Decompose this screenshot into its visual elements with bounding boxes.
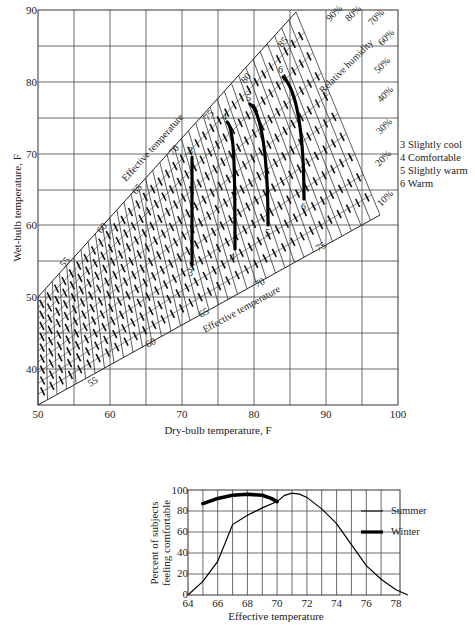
x-tick-60: 60	[105, 408, 117, 420]
rh-caption: Relative humidity	[317, 37, 376, 96]
upper-x-axis-label: Dry-bulb temperature, F	[164, 424, 271, 436]
legend-warm: 6 Warm	[400, 178, 433, 189]
chart-canvas: 3 3 4 4 5 5 6 6 55 60 65 70 75 80 85 Eff…	[0, 0, 475, 634]
x-tick-90: 90	[321, 408, 333, 420]
et-upper-55: 55	[57, 255, 72, 270]
rh-50: 50%	[372, 55, 393, 76]
et-upper-70: 70	[166, 143, 181, 158]
lower-y-axis-label-1: Percent of subjects	[148, 501, 160, 584]
rh-40: 40%	[375, 84, 396, 105]
lower-plot-frame	[188, 490, 400, 595]
curve-6-bottom-label: 6	[301, 201, 306, 212]
y-tick-80: 80	[26, 76, 38, 88]
lx-tick-66: 66	[212, 597, 224, 609]
rh-30: 30%	[374, 116, 395, 137]
lx-tick-74: 74	[331, 597, 343, 609]
curve-5-slightly-warm	[250, 104, 268, 225]
y-tick-40: 40	[26, 363, 38, 375]
y-tick-90: 90	[26, 4, 38, 16]
y-tick-60: 60	[26, 219, 38, 231]
lx-tick-76: 76	[361, 597, 373, 609]
ly-tick-20: 20	[177, 567, 189, 579]
lower-chart: 64 66 68 70 72 74 76 78 0 20 40 60 80 10…	[148, 484, 427, 622]
y-tick-50: 50	[26, 291, 38, 303]
curve-3-top-label: 3	[188, 145, 193, 156]
et-upper-85: 85	[275, 35, 290, 50]
ly-tick-100: 100	[172, 484, 189, 496]
x-tick-100: 100	[390, 408, 407, 420]
rh-90: 90%	[324, 3, 345, 24]
ly-tick-80: 80	[177, 504, 189, 516]
curve-5-bottom-label: 5	[265, 227, 270, 238]
curve-6-top-label: 6	[278, 64, 283, 75]
lx-tick-68: 68	[242, 597, 254, 609]
lower-y-ticks: 0 20 40 60 80 100	[172, 484, 189, 600]
curve-3-bottom-label: 3	[188, 267, 193, 278]
lower-grid	[188, 490, 400, 595]
upper-y-axis-label: Wet-bulb temperature, F	[11, 154, 23, 262]
lower-y-axis-label-2: feeling comfortable	[160, 500, 172, 587]
legend-slightly-cool: 3 Slightly cool	[400, 139, 462, 150]
upper-legend: 3 Slightly cool 4 Comfortable 5 Slightly…	[400, 139, 468, 189]
rh-60: 60%	[376, 27, 397, 48]
x-tick-70: 70	[177, 408, 189, 420]
curve-4-top-label: 4	[222, 111, 227, 122]
curve-4-comfortable	[227, 122, 235, 249]
rh-10: 10%	[375, 188, 396, 209]
legend-slightly-warm: 5 Slightly warm	[400, 165, 468, 176]
lx-tick-70: 70	[272, 597, 284, 609]
upper-y-ticks: 90 80 70 60 50 40	[26, 4, 38, 375]
legend-summer-label: Summer	[391, 505, 427, 516]
ly-tick-0: 0	[183, 588, 189, 600]
legend-comfortable: 4 Comfortable	[400, 152, 461, 163]
ly-tick-60: 60	[177, 525, 189, 537]
et-lower-55: 55	[86, 374, 100, 388]
curve-5-top-label: 5	[246, 92, 251, 103]
lower-x-ticks: 64 66 68 70 72 74 76 78	[183, 597, 403, 609]
curve-4-bottom-label: 4	[230, 251, 235, 262]
rh-20: 20%	[373, 148, 394, 169]
lower-legend: Summer Winter	[361, 505, 427, 537]
et-lower-caption: Effective temperature	[201, 283, 283, 335]
x-tick-80: 80	[249, 408, 261, 420]
winter-curve	[203, 494, 277, 503]
x-tick-50: 50	[33, 408, 45, 420]
comfort-curves	[192, 77, 304, 265]
lower-x-axis-label: Effective temperature	[228, 610, 323, 622]
ly-tick-40: 40	[177, 546, 189, 558]
upper-chart: 3 3 4 4 5 5 6 6 55 60 65 70 75 80 85 Eff…	[11, 3, 468, 436]
summer-curve	[188, 493, 408, 595]
legend-winter-label: Winter	[391, 526, 420, 537]
y-tick-70: 70	[26, 148, 38, 160]
rh-80: 80%	[343, 3, 364, 24]
lx-tick-72: 72	[301, 597, 312, 609]
upper-x-ticks: 50 60 70 80 90 100	[33, 408, 407, 420]
lx-tick-78: 78	[391, 597, 403, 609]
